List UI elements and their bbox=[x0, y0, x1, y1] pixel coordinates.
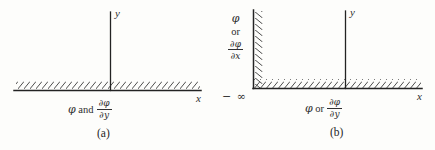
x-axis-label-a: x bbox=[196, 93, 201, 104]
phi-symbol-b-floor: φ bbox=[305, 102, 313, 115]
phi-symbol-a: φ bbox=[68, 103, 76, 116]
boundary-condition-label-a: φ and ∂φ∂y bbox=[68, 98, 112, 120]
derivative-denominator-a: ∂y bbox=[97, 110, 112, 121]
ground-hatching-a bbox=[16, 81, 200, 90]
figure-canvas: y x φ and ∂φ∂y (a) bbox=[0, 0, 435, 150]
derivative-numerator-a: ∂φ bbox=[97, 98, 112, 110]
floor-condition-label-b: φ or ∂φ∂y bbox=[305, 97, 343, 119]
panel-b: φ or ∂φ∂x − ∞ y x φ or ∂φ∂y (b) bbox=[218, 0, 435, 150]
caption-b: (b) bbox=[330, 127, 343, 139]
panel-a: y x φ and ∂φ∂y (a) bbox=[0, 0, 218, 150]
ground-hatching-b bbox=[254, 79, 421, 88]
derivative-denominator-b-floor: ∂y bbox=[327, 109, 342, 120]
connector-a: and bbox=[78, 104, 93, 115]
derivative-numerator-b-wall: ∂φ bbox=[228, 39, 243, 51]
left-limit-label-b: − ∞ bbox=[222, 91, 247, 102]
wall-condition-row-derivative: ∂φ∂x bbox=[220, 39, 251, 63]
derivative-denominator-b-wall: ∂x bbox=[228, 50, 243, 61]
derivative-numerator-b-floor: ∂φ bbox=[327, 97, 342, 109]
wall-hatching-b bbox=[254, 11, 264, 88]
y-axis-label-a: y bbox=[115, 8, 120, 19]
wall-condition-label-b: φ or ∂φ∂x bbox=[220, 12, 251, 62]
partial-derivative-b-wall: ∂φ∂x bbox=[228, 39, 243, 61]
partial-derivative-a: ∂φ∂y bbox=[97, 98, 112, 120]
x-axis-label-b: x bbox=[417, 91, 422, 102]
connector-b-floor: or bbox=[315, 103, 324, 114]
caption-a: (a) bbox=[97, 128, 110, 140]
phi-symbol-b-wall: φ bbox=[232, 12, 240, 25]
partial-derivative-b-floor: ∂φ∂y bbox=[327, 97, 342, 119]
wall-condition-row-connector: or bbox=[220, 26, 251, 39]
y-axis-label-b: y bbox=[350, 7, 355, 18]
wall-condition-row-phi: φ bbox=[220, 12, 251, 26]
